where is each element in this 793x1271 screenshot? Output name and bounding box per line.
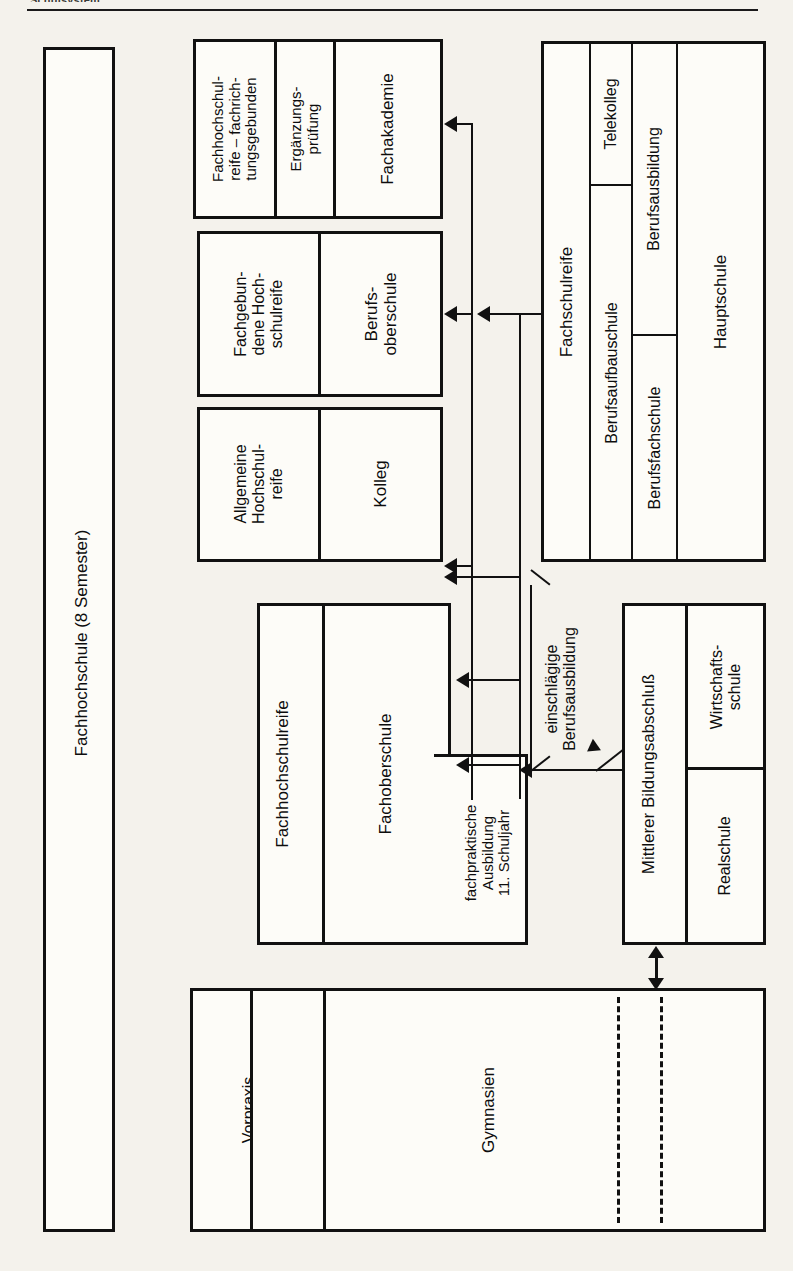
connector-to-fachoberschule-low <box>468 679 521 681</box>
cell-realschule-label: Realschule <box>714 770 736 942</box>
node-gymnasien-group: Vorpraxis Allgemeine Hochschulreife Gymn… <box>190 988 766 1232</box>
arrowhead-to-fachoberschule-low <box>456 672 469 688</box>
cell-fachschulreife-qualification-label: Fachschulreife <box>556 45 578 560</box>
cell-mittlerer-qualification: Mittlerer Bildungsabschluß <box>625 606 685 942</box>
gymnasien-dashed-divider-2 <box>660 997 663 1223</box>
connector-to-praktische <box>468 764 521 766</box>
seam-patch <box>432 757 438 942</box>
node-fachpraktische-ausbildung-label: fachpraktische Ausbildung 11. Schuljahr <box>461 761 515 946</box>
connector-to-fachakademie <box>455 123 473 125</box>
node-kolleg-group: Allgemeine Hochschul- reife Kolleg <box>197 407 443 562</box>
cell-hauptschule-label: Hauptschule <box>710 45 732 560</box>
einschlaegige-bracket-stem <box>530 585 532 770</box>
arrowhead-to-fachakademie <box>444 116 457 132</box>
connector-to-berufsoberschule-a <box>455 313 473 315</box>
cell-wirtschaftsschule: Wirtschafts- schule <box>688 606 763 767</box>
cell-telekolleg-label: Telekolleg <box>600 44 622 184</box>
cell-berufsoberschule-school: Berufs- oberschule <box>321 234 440 394</box>
cell-fachschulreife-qualification: Fachschulreife <box>544 44 589 559</box>
connector-spine-b <box>519 313 521 799</box>
cell-kolleg-qualification-label: Allgemeine Hochschul- reife <box>230 410 288 559</box>
cell-fachakademie-exam-label: Ergänzungs- prüfung <box>287 45 323 213</box>
cell-berufsoberschule-qualification-label: Fachgebun- dene Hoch- schulreife <box>230 234 288 394</box>
cell-fachoberschule-school-label: Fachoberschule <box>375 606 397 942</box>
node-fachhochschule-label: Fachhochschule (8 Semester) <box>65 51 99 1235</box>
arrowhead-to-berufsoberschule-a <box>444 306 457 322</box>
cell-realschule: Realschule <box>688 770 763 942</box>
arrowhead-down-mittlerer-gymnasien <box>648 978 664 990</box>
cell-fachakademie-school: Fachakademie <box>336 42 440 216</box>
cell-kolleg-qualification: Allgemeine Hochschul- reife <box>200 410 318 559</box>
cell-berufsausbildung: Berufsausbildung <box>633 44 676 334</box>
connector-to-fachoberschule-top <box>455 576 521 578</box>
cell-berufsfachschule-label: Berufsfachschule <box>644 337 666 560</box>
divider-telekolleg-bottom <box>591 184 631 186</box>
clipped-header-text: Schulsystem <box>30 0 100 2</box>
header-rule <box>27 9 758 11</box>
cell-berufsfachschule: Berufsfachschule <box>633 336 676 559</box>
arrowhead-diagonal-from-mittlerer <box>583 739 601 757</box>
einschlaegige-label: einschlägige Berufsausbildung <box>541 599 581 779</box>
cell-fachakademie-school-label: Fachakademie <box>377 45 399 213</box>
cell-wirtschaftsschule-label: Wirtschafts- schule <box>707 607 745 768</box>
diagram-page: Schulsystem Fachhochschule (8 Semester) … <box>0 0 793 1271</box>
cell-gymnasien-qualification: Allgemeine Hochschulreife <box>253 991 323 1229</box>
cell-telekolleg: Telekolleg <box>591 44 631 184</box>
cell-kolleg-school: Kolleg <box>321 410 440 559</box>
cell-berufsaufbauschule-label: Berufsaufbauschule <box>601 187 623 560</box>
cell-fachoberschule-school: Fachoberschule <box>325 606 448 942</box>
cell-fachakademie-qualification: Fachhochschul- reife – fachrich- tungsge… <box>196 42 274 216</box>
node-fachhochschule: Fachhochschule (8 Semester) <box>43 47 115 1232</box>
einschlaegige-bracket-top <box>530 569 550 585</box>
cell-fachakademie-qualification-label: Fachhochschul- reife – fachrich- tungsge… <box>209 45 261 213</box>
node-berufsoberschule-group: Fachgebun- dene Hoch- schulreife Berufs-… <box>197 231 443 397</box>
arrowhead-to-berufsoberschule-b <box>477 306 490 322</box>
cell-hauptschule: Hauptschule <box>678 44 763 559</box>
arrowhead-up-mittlerer-gymnasien <box>648 946 664 958</box>
cell-vorpraxis: Vorpraxis <box>193 991 250 1229</box>
gymnasien-dashed-divider-1 <box>617 997 620 1223</box>
arrowhead-to-praktische <box>456 757 469 773</box>
cell-fachhochschulreife-qualification-label: Fachhochschulreife <box>272 606 294 942</box>
node-mittlerer-group: Mittlerer Bildungsabschluß Wirtschafts- … <box>622 603 766 945</box>
cell-fachhochschulreife-qualification: Fachhochschulreife <box>260 606 322 942</box>
cell-berufsaufbauschule: Berufsaufbauschule <box>591 186 631 559</box>
cell-berufsausbildung-label: Berufsausbildung <box>643 44 665 334</box>
node-fachakademie-group: Fachhochschul- reife – fachrich- tungsge… <box>193 39 443 219</box>
cell-fachakademie-exam: Ergänzungs- prüfung <box>277 42 333 216</box>
cell-berufsoberschule-school-label: Berufs- oberschule <box>361 234 401 394</box>
cell-mittlerer-qualification-label: Mittlerer Bildungsabschluß <box>638 606 660 942</box>
connector-to-berufsoberschule-b <box>489 313 541 315</box>
cell-berufsoberschule-qualification: Fachgebun- dene Hoch- schulreife <box>200 234 318 394</box>
arrowhead-mittlerer-to-praktische <box>519 762 532 778</box>
node-fachschulreife-group: Fachschulreife Berufsaufbauschule Teleko… <box>541 41 766 562</box>
arrowhead-to-fachoberschule-top <box>444 569 457 585</box>
cell-gymnasien-school-label: Gymnasien <box>478 991 500 1229</box>
node-fachoberschule-group: Fachhochschulreife Fachoberschule <box>257 603 451 945</box>
cell-kolleg-school-label: Kolleg <box>370 410 392 559</box>
cell-gymnasien-school: Gymnasien <box>326 991 763 1229</box>
connector-mittlerer-to-praktische <box>530 769 625 771</box>
connector-spine-a <box>471 124 473 800</box>
node-fachpraktische-ausbildung: fachpraktische Ausbildung 11. Schuljahr <box>434 754 528 945</box>
connector-to-kolleg <box>455 565 473 567</box>
